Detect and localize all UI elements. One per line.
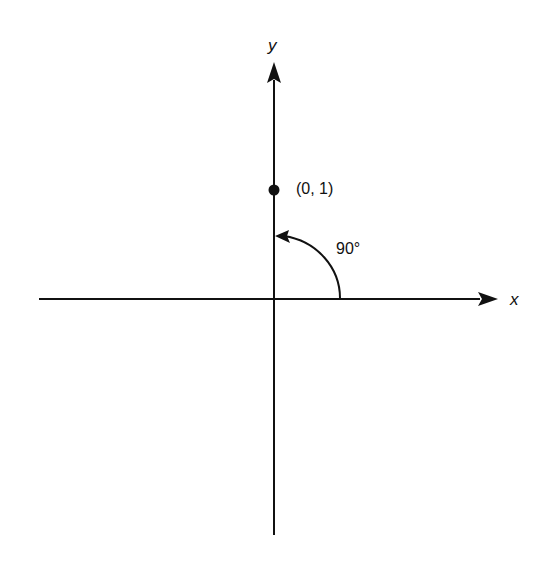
angle-arc	[275, 230, 340, 299]
x-axis	[39, 292, 498, 306]
x-axis-arrow-icon	[478, 292, 498, 306]
point-label: (0, 1)	[296, 180, 333, 198]
x-axis-label: x	[510, 290, 519, 310]
y-axis-label: y	[268, 36, 277, 56]
point-marker	[269, 185, 280, 196]
angle-label: 90°	[336, 240, 360, 258]
y-axis-arrow-icon	[267, 62, 281, 83]
diagram-canvas: y x (0, 1) 90°	[0, 0, 551, 565]
diagram-svg	[0, 0, 551, 565]
